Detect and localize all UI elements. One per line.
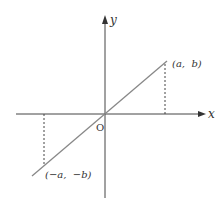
- coordinate-diagram: y x O (a, b) (−a, −b): [0, 0, 224, 210]
- y-axis: [102, 15, 108, 198]
- y-axis-arrow-icon: [102, 15, 108, 24]
- point-neg-a-neg-b-label: (−a, −b): [45, 169, 92, 180]
- point-a-b-label: (a, b): [172, 58, 202, 69]
- y-axis-label: y: [109, 13, 117, 27]
- x-axis-label: x: [208, 107, 215, 121]
- origin-label: O: [96, 122, 104, 133]
- line-through-origin: [32, 61, 167, 176]
- x-axis-arrow-icon: [198, 111, 206, 117]
